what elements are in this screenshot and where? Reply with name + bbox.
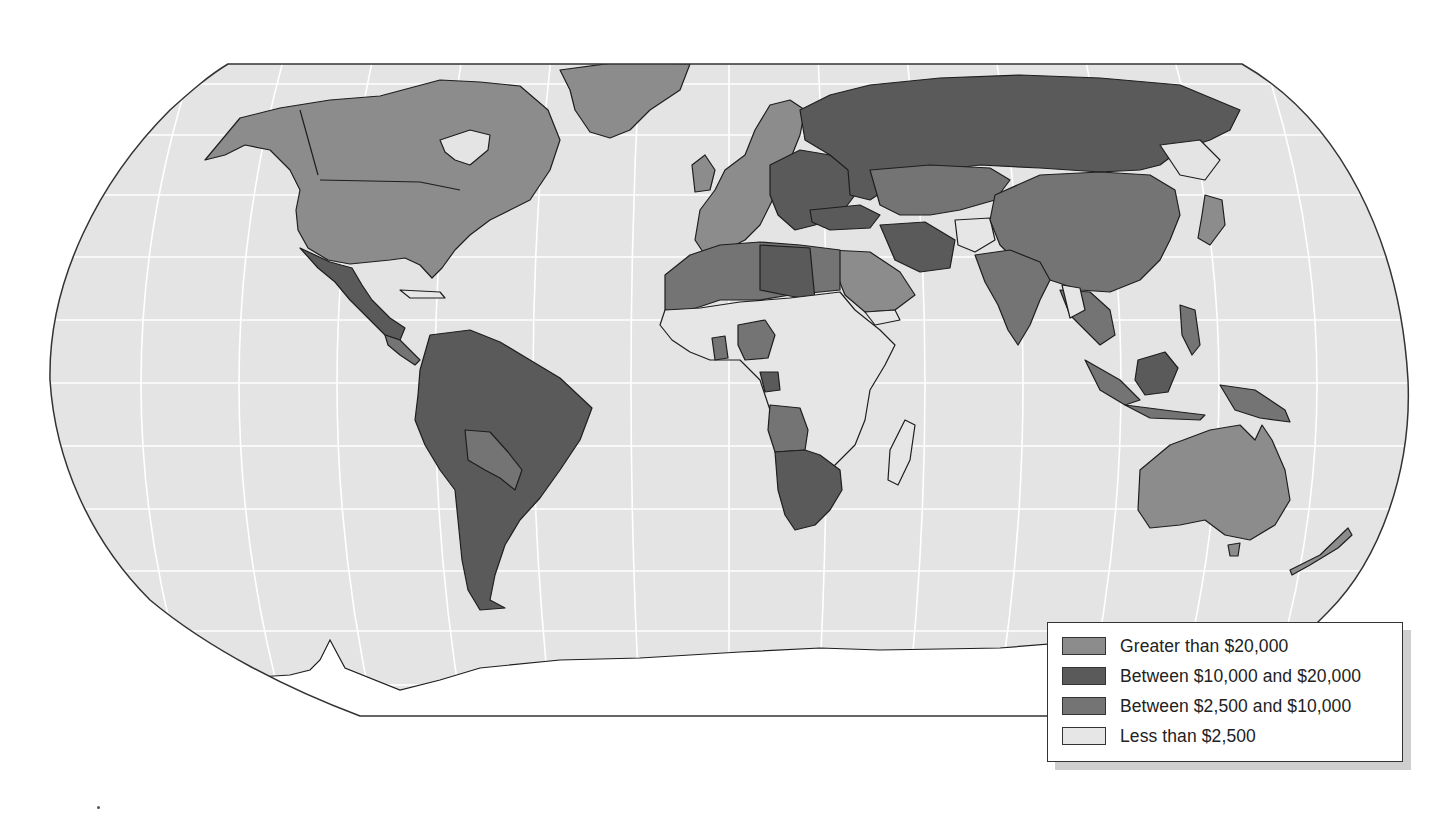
legend-item-upper-middle: Between $10,000 and $20,000 xyxy=(1062,661,1402,691)
legend-item-lower-middle: Between $2,500 and $10,000 xyxy=(1062,691,1402,721)
legend-swatch-lower-middle xyxy=(1062,697,1106,715)
legend-item-high: Greater than $20,000 xyxy=(1062,631,1402,661)
legend-label-low: Less than $2,500 xyxy=(1120,726,1256,747)
map-legend: Greater than $20,000 Between $10,000 and… xyxy=(1047,622,1403,762)
region-tasmania xyxy=(1228,543,1240,556)
region-libya xyxy=(760,245,815,300)
legend-label-upper-middle: Between $10,000 and $20,000 xyxy=(1120,666,1361,687)
region-angola xyxy=(768,405,808,452)
legend-swatch-upper-middle xyxy=(1062,667,1106,685)
stray-mark xyxy=(97,806,100,809)
legend-label-high: Greater than $20,000 xyxy=(1120,636,1288,657)
legend-swatch-high xyxy=(1062,637,1106,655)
legend-item-low: Less than $2,500 xyxy=(1062,721,1402,751)
region-nigeria xyxy=(738,320,775,360)
legend-label-lower-middle: Between $2,500 and $10,000 xyxy=(1120,696,1351,717)
legend-swatch-low xyxy=(1062,727,1106,745)
region-ghana xyxy=(712,336,728,360)
